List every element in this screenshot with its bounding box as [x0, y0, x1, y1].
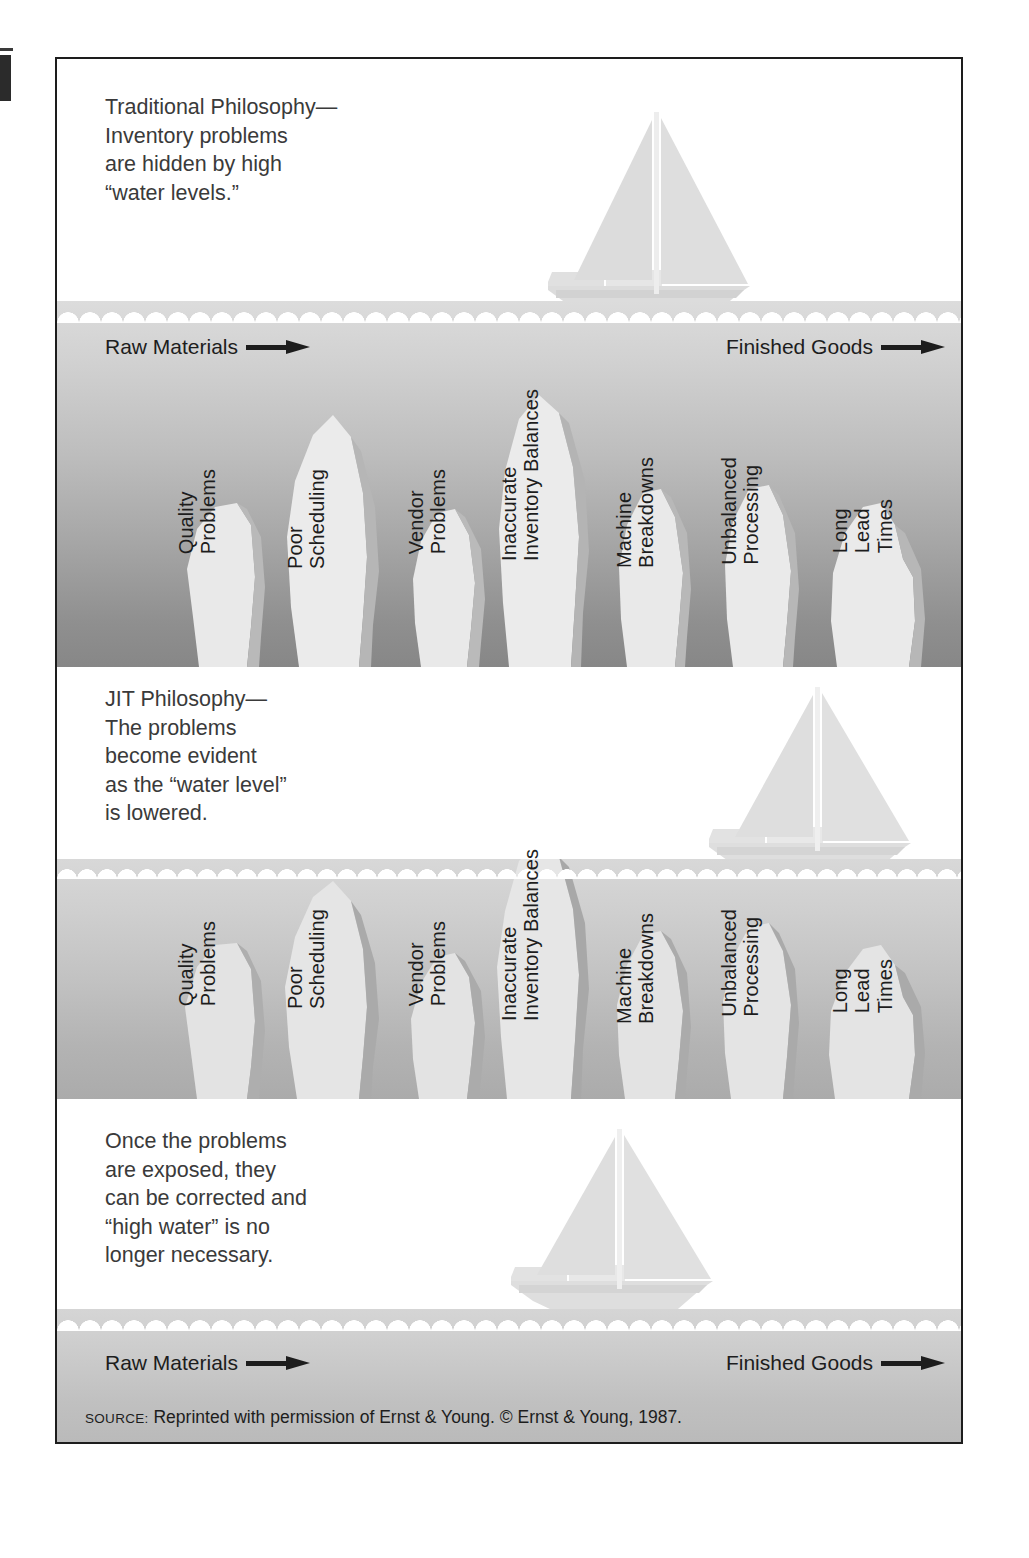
rock-label-vendor-problems: Vendor Problems [405, 469, 450, 554]
source-prefix: SOURCE: [85, 1411, 149, 1426]
panel-corrected: Once the problems are exposed, they can … [57, 1105, 961, 1442]
rock-label-inaccurate-inventory: Inaccurate Inventory Balances [498, 849, 543, 1021]
source-text: Reprinted with permission of Ernst & You… [153, 1407, 682, 1427]
rock-label-poor-scheduling: Poor Scheduling [284, 909, 329, 1009]
arrow-right-icon [881, 1356, 945, 1370]
rock-label-unbalanced-processing: Unbalanced Processing [718, 457, 763, 565]
finished-goods-text: Finished Goods [726, 335, 873, 359]
wave-crests-traditional [57, 301, 961, 323]
raw-materials-text: Raw Materials [105, 1351, 238, 1375]
flow-label-raw-materials-1: Raw Materials [105, 335, 310, 359]
rock-label-quality-problems: Quality Problems [175, 469, 220, 554]
flow-label-finished-goods-3: Finished Goods [726, 1351, 945, 1375]
finished-goods-text: Finished Goods [726, 1351, 873, 1375]
source-note: SOURCE: Reprinted with permission of Ern… [85, 1407, 682, 1428]
arrow-right-icon [246, 1356, 310, 1370]
page-edge-marker [0, 55, 11, 101]
rock-label-machine-breakdowns: Machine Breakdowns [613, 913, 658, 1024]
panel-jit-caption: JIT Philosophy— The problems become evid… [105, 685, 287, 828]
page-edge-marker-line [0, 48, 13, 51]
wave-crests-corrected [57, 1309, 961, 1331]
panel-traditional: Traditional Philosophy— Inventory proble… [57, 59, 961, 667]
rock-label-machine-breakdowns: Machine Breakdowns [613, 457, 658, 568]
arrow-right-icon [246, 340, 310, 354]
raw-materials-text: Raw Materials [105, 335, 238, 359]
panel-corrected-caption: Once the problems are exposed, they can … [105, 1127, 307, 1270]
rock-label-unbalanced-processing: Unbalanced Processing [718, 909, 763, 1017]
flow-label-finished-goods-1: Finished Goods [726, 335, 945, 359]
rock-label-long-lead-times: Long Lead Times [829, 499, 896, 553]
rock-label-quality-problems: Quality Problems [175, 921, 220, 1006]
rock-label-inaccurate-inventory: Inaccurate Inventory Balances [498, 389, 543, 561]
rock-label-poor-scheduling: Poor Scheduling [284, 469, 329, 569]
arrow-right-icon [881, 340, 945, 354]
panel-traditional-caption: Traditional Philosophy— Inventory proble… [105, 93, 337, 207]
rock-label-vendor-problems: Vendor Problems [405, 921, 450, 1006]
flow-label-raw-materials-3: Raw Materials [105, 1351, 310, 1375]
rock-label-long-lead-times: Long Lead Times [829, 959, 896, 1013]
panel-jit: JIT Philosophy— The problems become evid… [57, 673, 961, 1099]
figure-frame: Traditional Philosophy— Inventory proble… [55, 57, 963, 1444]
